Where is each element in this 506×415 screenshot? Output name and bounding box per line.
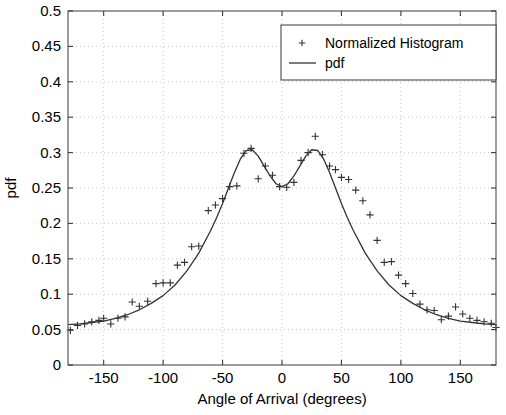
- y-tick-label: 0.45: [32, 37, 61, 54]
- x-tick-label: -50: [212, 369, 234, 386]
- y-tick-label: 0.25: [32, 179, 61, 196]
- y-tick-label: 0.5: [40, 2, 61, 19]
- legend-entry-label: Normalized Histogram: [325, 35, 463, 51]
- y-tick-label: 0.2: [40, 214, 61, 231]
- y-tick-label: 0.15: [32, 250, 61, 267]
- x-tick-label: -150: [89, 369, 119, 386]
- x-tick-label: 50: [333, 369, 350, 386]
- x-tick-label: 0: [278, 369, 286, 386]
- legend-entry-label: pdf: [325, 55, 345, 71]
- y-tick-label: 0.4: [40, 73, 61, 90]
- legend-box: [281, 25, 496, 80]
- y-tick-label: 0: [53, 356, 61, 373]
- y-tick-label: 0.35: [32, 108, 61, 125]
- pdf-chart: -150-100-5005010015000.050.10.150.20.250…: [0, 0, 506, 415]
- y-tick-label: 0.3: [40, 144, 61, 161]
- y-tick-label: 0.1: [40, 285, 61, 302]
- x-tick-label: 150: [448, 369, 473, 386]
- y-axis-title: pdf: [2, 177, 19, 199]
- x-axis-title: Angle of Arrival (degrees): [197, 390, 366, 407]
- y-tick-label: 0.05: [32, 321, 61, 338]
- x-tick-label: -100: [148, 369, 178, 386]
- figure-container: -150-100-5005010015000.050.10.150.20.250…: [0, 0, 506, 415]
- x-tick-label: 100: [388, 369, 413, 386]
